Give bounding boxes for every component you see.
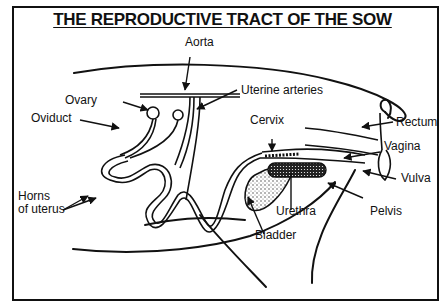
label-rectum: Rectum — [396, 116, 437, 129]
oviduct-arrow — [80, 120, 119, 128]
uterine-arteries-arrow — [197, 90, 237, 109]
label-urethra: Urethra — [276, 205, 316, 218]
label-cervix: Cervix — [250, 114, 284, 127]
sow-reproductive-tract-illustration — [0, 0, 445, 303]
horns-arrow-2 — [63, 198, 96, 210]
ovary-right — [173, 110, 183, 120]
oviduct — [120, 119, 153, 155]
label-oviduct: Oviduct — [31, 112, 72, 125]
label-aorta: Aorta — [185, 36, 214, 49]
label-horns-line2: of uterus — [18, 203, 65, 216]
hind-leg-outline — [145, 218, 245, 225]
pelvis-shape — [268, 163, 326, 177]
label-uterine-arteries: Uterine arteries — [241, 84, 323, 97]
pelvis-arrow — [328, 183, 363, 198]
aorta-arrow — [185, 57, 190, 90]
label-ovary: Ovary — [65, 94, 97, 107]
back-outline — [74, 65, 406, 121]
label-horns: Horns of uterus — [18, 190, 65, 216]
label-vulva: Vulva — [401, 172, 431, 185]
label-bladder: Bladder — [255, 229, 296, 242]
label-pelvis: Pelvis — [370, 205, 402, 218]
rectum-arrow — [362, 122, 393, 127]
ovary-left — [147, 107, 159, 119]
rectum-outline — [381, 100, 391, 118]
ovary-arrow — [123, 102, 148, 110]
label-vagina: Vagina — [384, 140, 420, 153]
cervix-ridge — [265, 154, 300, 156]
